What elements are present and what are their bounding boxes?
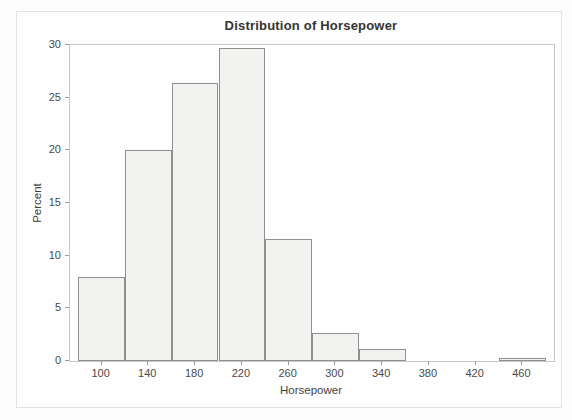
x-tick-label-380: 380 [408,367,448,379]
y-tick-label-25: 25 [31,91,61,103]
x-tick-mark-340 [381,361,382,365]
y-tick-mark-25 [65,97,69,98]
histogram-bar-340 [359,349,406,361]
x-tick-mark-380 [428,361,429,365]
x-tick-mark-180 [194,361,195,365]
histogram-bar-300 [312,333,359,361]
x-tick-mark-460 [521,361,522,365]
y-tick-label-15: 15 [31,196,61,208]
x-tick-mark-260 [288,361,289,365]
y-tick-label-20: 20 [31,143,61,155]
figure: Distribution of Horsepower Percent Horse… [16,11,562,408]
histogram-bar-260 [265,239,312,361]
x-tick-label-300: 300 [314,367,354,379]
y-tick-label-0: 0 [31,354,61,366]
histogram-bar-100 [78,277,125,361]
histogram-bar-220 [219,48,266,361]
chart-title: Distribution of Horsepower [69,18,553,33]
histogram-bar-140 [125,150,172,361]
y-tick-mark-10 [65,255,69,256]
y-tick-mark-20 [65,149,69,150]
x-tick-mark-300 [334,361,335,365]
screenshot-canvas: Distribution of Horsepower Percent Horse… [0,0,572,420]
histogram-bar-180 [172,83,219,361]
x-tick-label-140: 140 [127,367,167,379]
x-tick-mark-140 [147,361,148,365]
x-tick-mark-100 [101,361,102,365]
y-tick-label-30: 30 [31,38,61,50]
x-tick-label-220: 220 [221,367,261,379]
x-tick-label-100: 100 [81,367,121,379]
x-tick-label-420: 420 [455,367,495,379]
y-tick-label-5: 5 [31,301,61,313]
x-axis-label: Horsepower [69,384,553,396]
y-tick-mark-15 [65,202,69,203]
histogram-bar-460 [499,358,546,361]
x-tick-label-460: 460 [501,367,541,379]
x-tick-mark-420 [475,361,476,365]
y-tick-label-10: 10 [31,249,61,261]
x-tick-label-180: 180 [174,367,214,379]
plot-area [69,44,555,362]
y-tick-mark-30 [65,44,69,45]
x-tick-label-340: 340 [361,367,401,379]
x-tick-mark-220 [241,361,242,365]
x-tick-label-260: 260 [268,367,308,379]
y-tick-mark-0 [65,360,69,361]
y-tick-mark-5 [65,307,69,308]
